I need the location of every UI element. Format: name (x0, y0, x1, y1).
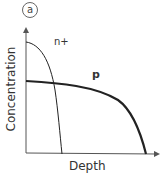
n-plus-label: n+ (54, 36, 69, 47)
x-axis-label: Depth (69, 159, 106, 173)
p-label: p (92, 68, 100, 81)
p-curve (26, 81, 146, 154)
y-axis-label: Concentration (4, 44, 18, 134)
n-plus-curve (26, 42, 62, 154)
x-axis (26, 153, 157, 154)
panel-label: a (22, 2, 38, 18)
